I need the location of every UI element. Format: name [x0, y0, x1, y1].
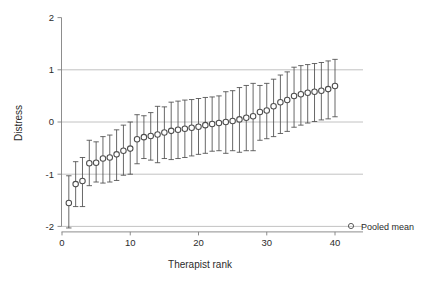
data-point-marker: [182, 126, 188, 132]
x-tick-label-30: 30: [261, 237, 272, 248]
legend-label-pooled-mean: Pooled mean: [361, 222, 414, 232]
data-point-marker: [87, 160, 93, 166]
data-point-marker: [66, 200, 72, 206]
data-point-marker: [93, 160, 99, 166]
data-point-marker: [196, 124, 202, 130]
data-point-marker: [121, 148, 127, 154]
data-point-marker: [305, 90, 311, 96]
data-point-marker: [128, 146, 134, 152]
data-point-marker: [73, 181, 79, 187]
y-tick-label--1: -1: [46, 169, 54, 180]
data-point-marker: [100, 156, 106, 162]
data-point-marker: [148, 133, 154, 139]
y-tick-label-1: 1: [49, 64, 54, 75]
data-point-markers-group: [66, 83, 338, 205]
data-point-marker: [216, 120, 222, 126]
data-point-marker: [175, 127, 181, 133]
data-point-marker: [264, 108, 270, 114]
data-point-marker: [189, 125, 195, 131]
data-point-marker: [332, 83, 338, 89]
x-tick-label-40: 40: [330, 237, 341, 248]
error-bars-group: [66, 59, 338, 228]
data-point-marker: [291, 93, 297, 99]
data-point-marker: [223, 119, 229, 125]
data-point-marker: [209, 121, 215, 127]
x-tick-label-20: 20: [193, 237, 204, 248]
data-point-marker: [155, 132, 161, 138]
y-tick-label-0: 0: [49, 116, 54, 127]
data-point-marker: [244, 115, 250, 121]
data-point-marker: [168, 128, 174, 134]
y-axis-tick-labels: 210-1-2: [46, 12, 54, 232]
x-tick-label-10: 10: [125, 237, 136, 248]
data-point-marker: [312, 89, 318, 95]
chart-figure: 210-1-2 010203040 Distress Therapist ran…: [0, 0, 436, 281]
x-axis-title: Therapist rank: [168, 259, 233, 270]
distress-by-therapist-rank-scatter-plot: 210-1-2 010203040 Distress Therapist ran…: [0, 0, 436, 281]
data-point-marker: [141, 134, 147, 140]
y-tick-label--2: -2: [46, 221, 54, 232]
data-point-marker: [278, 99, 284, 105]
data-point-marker: [271, 104, 277, 110]
data-point-marker: [80, 178, 86, 184]
data-point-marker: [319, 88, 325, 94]
y-tick-label-2: 2: [49, 12, 54, 23]
data-point-marker: [325, 86, 331, 92]
data-point-marker: [257, 109, 263, 115]
data-point-marker: [162, 130, 168, 136]
x-axis-tick-labels: 010203040: [59, 237, 340, 248]
data-point-marker: [284, 97, 290, 103]
data-point-marker: [134, 136, 140, 142]
y-axis-title: Distress: [13, 105, 24, 141]
data-point-marker: [114, 152, 120, 158]
x-tick-label-0: 0: [59, 237, 64, 248]
data-point-marker: [230, 118, 236, 124]
data-point-marker: [237, 117, 243, 123]
data-point-marker: [250, 114, 256, 120]
data-point-marker: [107, 155, 113, 161]
data-point-marker: [298, 92, 304, 98]
data-point-marker: [203, 122, 209, 128]
